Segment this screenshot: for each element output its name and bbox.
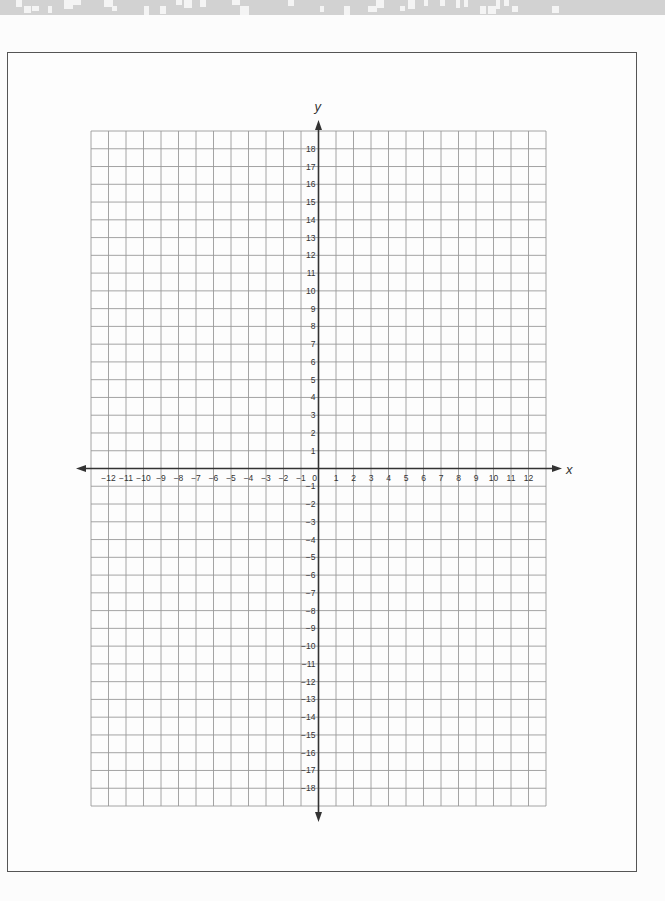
x-tick-label: 7 [439,473,444,483]
x-tick-label: −6 [209,473,219,483]
x-tick-label: −1 [296,473,306,483]
x-tick-label: 12 [524,473,534,483]
y-tick-label: 1 [311,446,316,456]
y-tick-label: 15 [306,197,316,207]
y-tick-label: −7 [306,588,316,598]
x-axis-title: x [565,462,573,477]
x-tick-label: −2 [279,473,289,483]
x-tick-label: −11 [119,473,133,483]
x-axis-right-arrow-icon [552,465,562,472]
x-tick-label: 3 [369,473,374,483]
y-tick-label: 16 [306,179,316,189]
x-tick-label: −5 [226,473,236,483]
y-tick-label: 10 [306,286,316,296]
y-tick-label: 8 [311,321,316,331]
x-tick-label: 4 [386,473,391,483]
x-tick-label: −10 [136,473,151,483]
x-tick-label: −3 [261,473,271,483]
y-tick-label: −9 [306,623,316,633]
y-tick-label: 14 [306,215,316,225]
y-tick-label: −6 [306,570,316,580]
x-tick-label: −7 [191,473,201,483]
y-tick-label: 6 [311,357,316,367]
y-tick-label: 4 [311,392,316,402]
y-tick-label: 2 [311,428,316,438]
y-tick-label: 17 [306,162,316,172]
y-axis-down-arrow-icon [315,812,322,822]
coordinate-plane: −12−11−10−9−8−7−6−5−4−3−2−10123456789101… [0,0,665,901]
x-tick-label: 1 [334,473,339,483]
y-tick-label: −1 [306,481,316,491]
y-tick-label: 9 [311,304,316,314]
x-tick-labels: −12−11−10−9−8−7−6−5−4−3−2−10123456789101… [101,473,533,483]
y-tick-label: 12 [306,250,316,260]
x-tick-label: 5 [404,473,409,483]
y-tick-label: −8 [306,606,316,616]
x-tick-label: 8 [456,473,461,483]
y-tick-label: −15 [301,730,316,740]
y-tick-label: 3 [311,410,316,420]
y-tick-label: 5 [311,375,316,385]
y-tick-label: −2 [306,499,316,509]
y-tick-label: −18 [301,783,316,793]
x-tick-label: −4 [244,473,254,483]
x-tick-label: 2 [351,473,356,483]
y-tick-label: −13 [301,694,316,704]
y-tick-label: 7 [311,339,316,349]
y-tick-label: −12 [301,677,316,687]
y-tick-label: 13 [306,233,316,243]
y-tick-label: −17 [301,765,316,775]
y-tick-label: −16 [301,748,316,758]
x-tick-label: 6 [421,473,426,483]
x-tick-label: −9 [156,473,166,483]
y-axis-up-arrow-icon [315,120,322,130]
y-axis-title: y [314,99,323,114]
x-tick-label: 9 [474,473,479,483]
x-tick-label: 10 [489,473,499,483]
y-tick-label: 11 [307,268,316,278]
axes [76,120,562,822]
x-tick-label: −8 [174,473,184,483]
y-tick-label: −10 [301,641,316,651]
x-tick-label: −12 [101,473,116,483]
y-tick-label: 18 [306,144,316,154]
y-tick-label: −3 [306,517,316,527]
x-tick-label: 11 [507,473,516,483]
y-tick-label: −11 [302,659,316,669]
x-axis-left-arrow-icon [76,465,86,472]
y-tick-label: −14 [301,712,316,722]
y-tick-label: −5 [306,552,316,562]
y-tick-label: −4 [306,535,316,545]
